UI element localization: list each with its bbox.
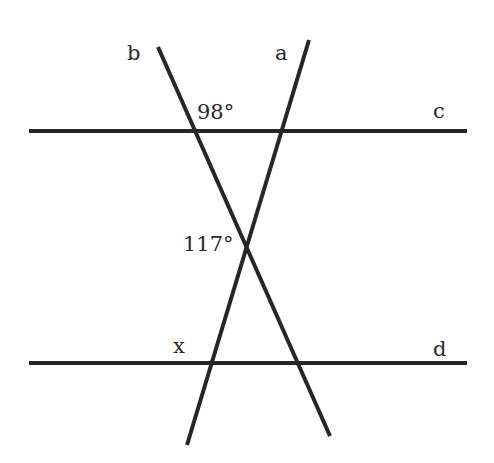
angle-x-label: x: [173, 334, 185, 358]
label-b: b: [127, 41, 140, 65]
label-a: a: [275, 41, 288, 65]
angle-117-label: 117°: [183, 232, 234, 256]
diagram: b a c d 98° 117° x: [0, 0, 494, 463]
angle-98-label: 98°: [197, 100, 234, 124]
label-d: d: [433, 337, 446, 361]
label-c: c: [433, 99, 445, 123]
